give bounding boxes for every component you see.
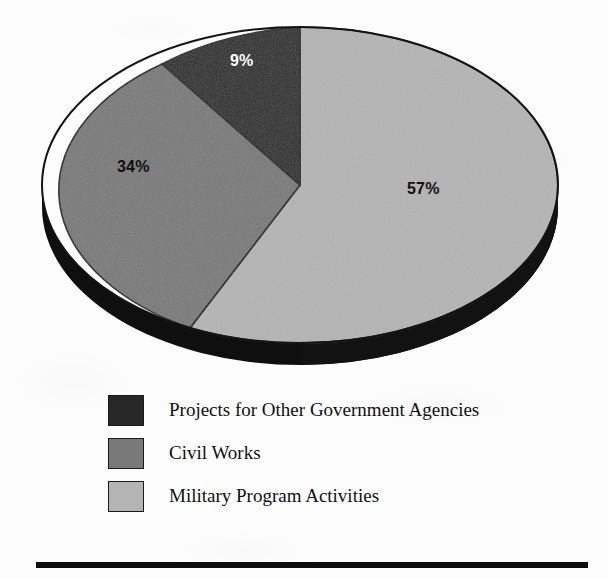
legend-swatch-icon-military-program-activities (108, 481, 144, 512)
legend-label-civil-works: Civil Works (169, 443, 261, 464)
legend-swatch-icon-civil-works (108, 438, 144, 469)
legend-label-projects-for-other-government-agencies: Projects for Other Government Agencies (169, 400, 479, 421)
bottom-horizontal-rule (36, 562, 588, 568)
legend-swatch-icon-projects-for-other-government-agencies (108, 395, 144, 426)
legend-item-military-program-activities: Military Program Activities (108, 475, 578, 518)
pie-data-label-9: 9% (230, 52, 254, 70)
chart-legend: Projects for Other Government Agencies C… (108, 389, 578, 518)
legend-item-projects-for-other-government-agencies: Projects for Other Government Agencies (108, 389, 578, 432)
pie-data-label-34: 34% (117, 158, 150, 176)
legend-item-civil-works: Civil Works (108, 432, 578, 475)
legend-label-military-program-activities: Military Program Activities (169, 486, 379, 507)
pie-chart-svg (0, 0, 608, 370)
pie-data-label-57: 57% (407, 180, 440, 198)
pie-chart-figure: 9% 34% 57% (0, 0, 608, 370)
chart-page: 9% 34% 57% Projects for Other Government… (0, 0, 608, 579)
